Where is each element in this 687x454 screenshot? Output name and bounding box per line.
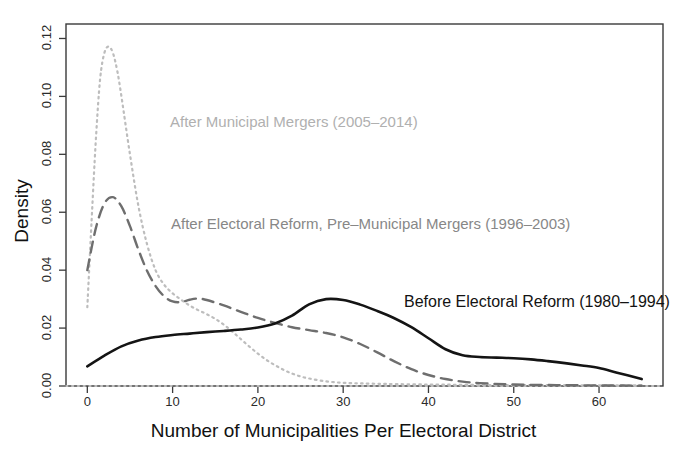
series-annotation-before-reform: Before Electoral Reform (1980–1994) — [404, 293, 670, 311]
y-tick-label: 0.12 — [39, 16, 54, 60]
y-axis-title: Density — [11, 151, 33, 271]
density-plot-figure: Density Number of Municipalities Per Ele… — [0, 0, 687, 454]
y-tick-label: 0.00 — [39, 364, 54, 408]
y-tick-label: 0.10 — [39, 74, 54, 118]
y-tick-label: 0.08 — [39, 132, 54, 176]
x-tick-label: 10 — [153, 394, 193, 409]
x-tick-label: 60 — [579, 394, 619, 409]
series-annotation-after-reform: After Electoral Reform, Pre–Municipal Me… — [171, 215, 570, 232]
series-annotation-after-mergers: After Municipal Mergers (2005–2014) — [170, 113, 418, 130]
y-tick-label: 0.04 — [39, 248, 54, 292]
x-tick-label: 30 — [323, 394, 363, 409]
x-tick-label: 40 — [408, 394, 448, 409]
y-tick-label: 0.06 — [39, 190, 54, 234]
x-tick-label: 20 — [238, 394, 278, 409]
x-tick-label: 50 — [494, 394, 534, 409]
x-tick-label: 0 — [67, 394, 107, 409]
x-axis-title: Number of Municipalities Per Electoral D… — [0, 420, 687, 442]
y-tick-label: 0.02 — [39, 306, 54, 350]
